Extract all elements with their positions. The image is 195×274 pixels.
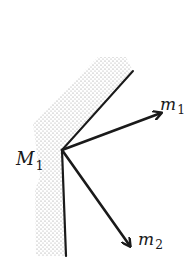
vertex-label-subscript: 1 bbox=[35, 158, 43, 173]
wall-corner-diagram bbox=[0, 0, 195, 274]
vector-m2-label-subscript: 2 bbox=[155, 238, 163, 252]
vector-label-m1: m1 bbox=[160, 96, 185, 117]
vector-m2-label-main: m bbox=[138, 229, 154, 249]
vector-m1-label-subscript: 1 bbox=[177, 103, 185, 117]
vector-m2-arrow bbox=[62, 150, 130, 246]
vector-label-m2: m2 bbox=[138, 231, 163, 252]
vector-m1-label-main: m bbox=[160, 94, 176, 114]
vertex-label-main: M bbox=[16, 148, 34, 169]
vertex-label-M1: M1 bbox=[16, 150, 44, 172]
